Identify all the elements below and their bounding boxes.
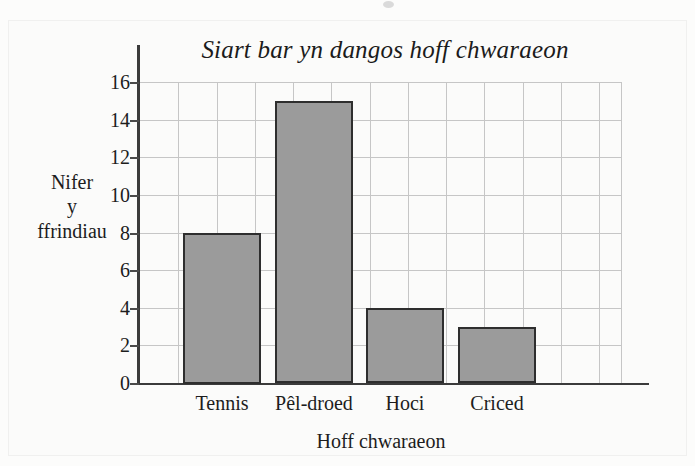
gridline-vertical <box>446 82 447 383</box>
x-axis-title: Hoff chwaraeon <box>140 430 622 453</box>
y-axis-tick <box>130 157 139 159</box>
y-axis-tick-label: 14 <box>100 110 130 130</box>
gridline-vertical <box>599 82 600 383</box>
bar-chart-figure: Siart bar yn dangos hoff chwaraeon 02468… <box>0 0 695 466</box>
bar-tennis <box>183 233 261 384</box>
x-axis-tick-label: Criced <box>417 392 577 415</box>
gridline-horizontal <box>140 195 622 196</box>
y-axis-tick-label: 2 <box>100 335 130 355</box>
y-axis-tick <box>130 383 139 385</box>
y-axis-tick <box>130 195 139 197</box>
y-axis-tick <box>130 270 139 272</box>
chart-title: Siart bar yn dangos hoff chwaraeon <box>160 36 610 64</box>
gridline-vertical <box>178 82 179 383</box>
y-axis-title-line-1: Nifer <box>18 170 126 194</box>
y-axis-tick-label: 6 <box>100 260 130 280</box>
gridline-vertical <box>621 82 622 383</box>
y-axis-tick-label: 16 <box>100 72 130 92</box>
y-axis-tick <box>130 345 139 347</box>
y-axis-title-line-3: ffrindiau <box>18 219 126 243</box>
y-axis-tick <box>130 82 139 84</box>
gridline-vertical <box>561 82 562 383</box>
gridline-horizontal <box>140 120 622 121</box>
scan-artifact-speck <box>383 1 394 8</box>
y-axis-tick-label: 4 <box>100 298 130 318</box>
y-axis-title-line-2: y <box>18 194 126 218</box>
gridline-horizontal <box>140 82 622 83</box>
y-axis-tick <box>130 308 139 310</box>
bar-p-l-droed <box>275 101 353 383</box>
y-axis-title: Nifer y ffrindiau <box>18 170 126 243</box>
y-axis-tick-label: 0 <box>100 373 130 393</box>
bar-hoci <box>366 308 444 383</box>
y-axis-tick <box>130 120 139 122</box>
y-axis-tick-label: 12 <box>100 147 130 167</box>
bar-criced <box>458 327 536 383</box>
y-axis-tick <box>130 233 139 235</box>
gridline-horizontal <box>140 157 622 158</box>
y-axis-line <box>137 45 140 385</box>
